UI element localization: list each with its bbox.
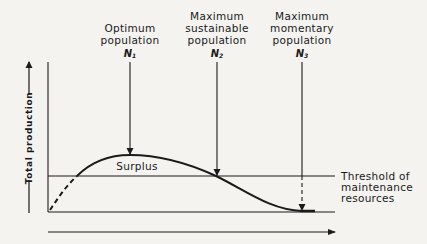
- n2-label-line-2: sustainable: [185, 22, 249, 34]
- y-axis-label: Total production: [24, 92, 34, 185]
- surplus-label: Surplus: [116, 160, 157, 172]
- n2-label: Maximum sustainable population N2: [185, 10, 249, 59]
- n3-label-line-3: population: [273, 34, 332, 46]
- n3-symbol: N3: [296, 48, 309, 59]
- production-curve: [77, 155, 302, 211]
- production-curve-dashed: [50, 176, 77, 210]
- n2-label-line-1: Maximum: [190, 10, 244, 22]
- n1-label-line-1: Optimum: [104, 22, 155, 34]
- n1-symbol: N1: [124, 48, 137, 59]
- n1-label: Optimum population N1: [101, 22, 160, 59]
- n2-label-line-3: population: [188, 34, 247, 46]
- n2-symbol: N2: [211, 48, 224, 59]
- threshold-label-line-3: resources: [341, 192, 395, 204]
- n3-label: Maximum momentary population N3: [270, 10, 334, 59]
- population-diagram: Total production Optimum population N1 M…: [0, 0, 427, 244]
- n1-label-line-2: population: [101, 34, 160, 46]
- n3-label-line-2: momentary: [270, 22, 334, 34]
- threshold-label: Threshold of maintenance resources: [340, 170, 413, 204]
- n3-label-line-1: Maximum: [275, 10, 329, 22]
